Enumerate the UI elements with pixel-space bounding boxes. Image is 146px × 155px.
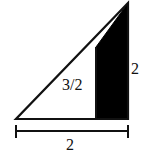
label-base: 2	[66, 137, 74, 153]
geometry-figure: 3/2 2 2	[0, 0, 146, 155]
label-interior-height: 3/2	[62, 77, 82, 93]
label-right-side: 2	[131, 61, 139, 77]
